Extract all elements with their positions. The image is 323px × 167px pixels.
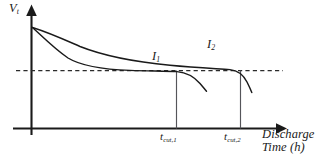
curve-label-i1: I1 bbox=[152, 50, 160, 64]
discharge-curve-figure: Vt I1 I2 tcut,1 tcut,2 Discharge Time (h… bbox=[0, 0, 323, 167]
discharge-curve-i2 bbox=[33, 28, 252, 93]
y-axis-arrowhead bbox=[26, 5, 37, 17]
tick-label-tcut2: tcut,2 bbox=[224, 131, 241, 143]
curve-label-i1-subscript: 1 bbox=[156, 55, 160, 64]
tick-label-tcut1-subscript: cut,1 bbox=[163, 136, 176, 143]
y-axis-label: Vt bbox=[9, 2, 19, 16]
x-axis-title-line2: Time (h) bbox=[262, 141, 315, 154]
y-axis-label-subscript: t bbox=[17, 7, 19, 16]
tick-label-tcut1: tcut,1 bbox=[160, 131, 177, 143]
tick-label-tcut2-subscript: cut,2 bbox=[227, 136, 240, 143]
y-axis-label-main: V bbox=[9, 1, 17, 15]
curve-label-i2: I2 bbox=[207, 38, 215, 52]
x-axis-title-line1: Discharge bbox=[262, 128, 315, 141]
x-axis-title: Discharge Time (h) bbox=[262, 128, 315, 155]
curve-label-i2-subscript: 2 bbox=[211, 43, 215, 52]
